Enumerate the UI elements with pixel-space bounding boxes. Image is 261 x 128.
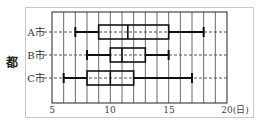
category-label-c: C市 (27, 72, 45, 84)
category-label-b: B市 (27, 49, 44, 61)
x-tick-15: 15 (163, 105, 175, 115)
box-group (44, 25, 227, 85)
x-tick-10: 10 (104, 105, 116, 115)
x-tick-5: 5 (49, 105, 55, 115)
category-label-a: A市 (26, 26, 44, 38)
x-tick-20: 20(日) (221, 105, 248, 115)
boxplot-chart: A市 B市 C市 5 10 15 20(日) (0, 0, 261, 128)
